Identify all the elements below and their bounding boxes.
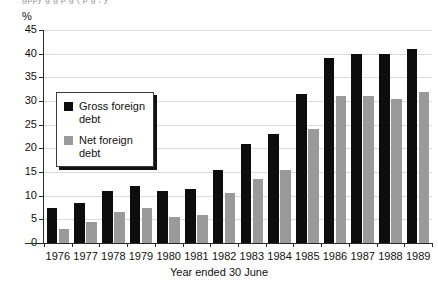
bar-gross-1984 <box>268 134 279 243</box>
legend-item-net: Net foreign debt <box>64 134 147 159</box>
x-axis-tick <box>155 243 156 247</box>
x-axis-tick <box>210 243 211 247</box>
bar-gross-1987 <box>351 54 362 243</box>
y-axis-tick-label: 10 <box>11 190 37 201</box>
bar-gross-1977 <box>74 203 85 243</box>
x-axis-tick <box>404 243 405 247</box>
y-axis-tick-label: 25 <box>11 119 37 130</box>
x-axis-title: Year ended 30 June <box>0 266 438 278</box>
bar-net-1987 <box>363 96 374 243</box>
bar-net-1976 <box>59 229 70 243</box>
chart-container: gppy g g p g ( p g , y % 051015202530354… <box>0 0 438 284</box>
bar-gross-1976 <box>47 208 58 244</box>
y-axis-tick-label: 20 <box>11 142 37 153</box>
bar-gross-1982 <box>213 170 224 243</box>
bar-net-1978 <box>114 212 125 243</box>
bar-net-1984 <box>280 170 291 243</box>
bar-gross-1979 <box>130 186 141 243</box>
x-axis-tick-label: 1989 <box>398 250 438 262</box>
bar-net-1983 <box>253 179 264 243</box>
x-axis-tick <box>238 243 239 247</box>
y-axis-unit-label: % <box>22 11 32 22</box>
legend-label-gross: Gross foreign debt <box>79 100 147 125</box>
bar-gross-1988 <box>379 54 390 243</box>
clipped-title-remnant: gppy g g p g ( p g , y <box>22 0 108 4</box>
x-axis-tick <box>377 243 378 247</box>
chart-legend: Gross foreign debt Net foreign debt <box>56 92 154 167</box>
x-axis-line <box>25 243 432 244</box>
bar-net-1986 <box>336 96 347 243</box>
bar-gross-1986 <box>324 58 335 243</box>
legend-swatch-net-icon <box>64 136 73 145</box>
bar-gross-1978 <box>102 191 113 243</box>
bar-net-1977 <box>86 222 97 243</box>
x-axis-tick <box>432 243 433 247</box>
x-axis-tick <box>293 243 294 247</box>
bar-gross-1983 <box>241 144 252 243</box>
x-axis-tick <box>72 243 73 247</box>
x-axis-tick <box>183 243 184 247</box>
x-axis-tick <box>321 243 322 247</box>
bar-gross-1985 <box>296 94 307 243</box>
bar-gross-1980 <box>157 191 168 243</box>
bar-gross-1989 <box>407 49 418 243</box>
legend-label-net: Net foreign debt <box>79 134 147 159</box>
y-axis-tick-label: 35 <box>11 71 37 82</box>
bar-net-1989 <box>419 92 430 243</box>
y-axis-tick-label: 30 <box>11 95 37 106</box>
y-axis-tick-label: 15 <box>11 166 37 177</box>
y-axis-tick-label: 45 <box>11 24 37 35</box>
x-axis-tick <box>127 243 128 247</box>
bar-net-1981 <box>197 215 208 243</box>
legend-swatch-gross-icon <box>64 102 73 111</box>
y-axis-tick-label: 5 <box>11 213 37 224</box>
x-axis-tick <box>266 243 267 247</box>
legend-item-gross: Gross foreign debt <box>64 100 147 125</box>
y-axis-tick-label: 40 <box>11 48 37 59</box>
x-axis-tick <box>349 243 350 247</box>
x-axis-tick <box>99 243 100 247</box>
x-axis-tick <box>44 243 45 247</box>
bar-net-1982 <box>225 193 236 243</box>
bar-net-1979 <box>142 208 153 244</box>
bar-net-1985 <box>308 129 319 243</box>
bar-net-1988 <box>391 99 402 243</box>
bar-net-1980 <box>169 217 180 243</box>
bar-gross-1981 <box>185 189 196 243</box>
